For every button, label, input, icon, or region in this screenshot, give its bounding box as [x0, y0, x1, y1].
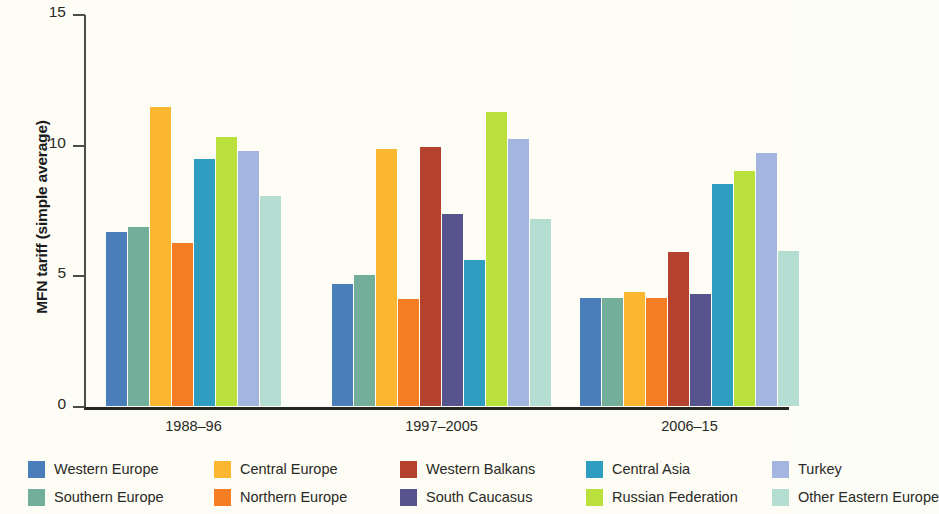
y-tick-0: 0: [73, 406, 85, 408]
legend-item: Western Europe: [28, 461, 214, 478]
legend-swatch-icon: [214, 461, 231, 478]
legend-swatch-icon: [772, 461, 789, 478]
legend-label: Southern Europe: [54, 489, 164, 505]
bar: [150, 107, 171, 406]
bar: [508, 139, 529, 406]
chart-legend: Western EuropeCentral EuropeWestern Balk…: [28, 455, 793, 511]
bar: [756, 153, 777, 406]
legend-label: Central Asia: [612, 461, 690, 477]
legend-label: Russian Federation: [612, 489, 738, 505]
bar: [778, 251, 799, 406]
bar: [486, 112, 507, 406]
y-axis-label: MFN tariff (simple average): [33, 67, 51, 367]
bar: [734, 171, 755, 406]
bar: [464, 260, 485, 406]
bar: [354, 275, 375, 406]
legend-label: Western Balkans: [426, 461, 535, 477]
legend-item: Other Eastern Europe: [772, 489, 939, 506]
legend-item: Russian Federation: [586, 489, 772, 506]
legend-swatch-icon: [586, 461, 603, 478]
y-tick-15: 15: [73, 14, 85, 16]
y-tick-label: 5: [57, 264, 66, 282]
bar: [194, 159, 215, 406]
bar: [580, 298, 601, 406]
legend-item: Central Asia: [586, 461, 772, 478]
bar: [420, 147, 441, 406]
legend-swatch-icon: [772, 489, 789, 506]
bar: [690, 294, 711, 406]
y-tick-10: 10: [73, 145, 85, 147]
legend-swatch-icon: [400, 489, 417, 506]
legend-item: Southern Europe: [28, 489, 214, 506]
bar: [442, 214, 463, 406]
bar-group: 1997–2005: [332, 14, 551, 406]
bar: [106, 232, 127, 406]
legend-label: Other Eastern Europe: [798, 489, 939, 505]
y-tick-label: 0: [57, 395, 66, 413]
bar: [624, 292, 645, 406]
plot-area: 051015 1988–961997–20052006–15: [84, 15, 789, 408]
bar: [216, 137, 237, 406]
y-tick-5: 5: [73, 275, 85, 277]
bar: [260, 196, 281, 406]
legend-label: Western Europe: [54, 461, 159, 477]
legend-swatch-icon: [400, 461, 417, 478]
legend-item: South Caucasus: [400, 489, 586, 506]
y-tick-label: 15: [49, 3, 66, 21]
bar-group: 1988–96: [106, 14, 281, 406]
legend-item: Central Europe: [214, 461, 400, 478]
legend-item: Turkey: [772, 461, 939, 478]
y-axis-line: [84, 15, 86, 409]
legend-label: Turkey: [798, 461, 842, 477]
bar: [376, 149, 397, 406]
legend-label: South Caucasus: [426, 489, 532, 505]
legend-swatch-icon: [28, 489, 45, 506]
legend-label: Northern Europe: [240, 489, 347, 505]
bar: [172, 243, 193, 406]
legend-item: Western Balkans: [400, 461, 586, 478]
bar: [398, 299, 419, 406]
x-axis-group-label: 1988–96: [106, 418, 281, 434]
legend-item: Northern Europe: [214, 489, 400, 506]
bar: [602, 298, 623, 406]
bar: [668, 252, 689, 406]
bar: [332, 284, 353, 406]
bar: [530, 219, 551, 406]
legend-swatch-icon: [586, 489, 603, 506]
bar: [238, 151, 259, 406]
legend-swatch-icon: [28, 461, 45, 478]
bar: [712, 184, 733, 406]
x-axis-group-label: 1997–2005: [332, 418, 551, 434]
legend-swatch-icon: [214, 489, 231, 506]
x-axis-group-label: 2006–15: [580, 418, 799, 434]
bar-group: 2006–15: [580, 14, 799, 406]
x-axis-line: [84, 407, 789, 410]
bar: [128, 227, 149, 406]
bar: [646, 298, 667, 406]
legend-label: Central Europe: [240, 461, 338, 477]
y-tick-label: 10: [49, 134, 66, 152]
